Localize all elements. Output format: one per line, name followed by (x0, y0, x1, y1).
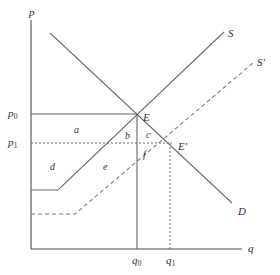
region-label-d: d (50, 162, 55, 172)
equilibrium-point-label-E-prime: E' (178, 141, 187, 152)
region-label-a: a (74, 125, 79, 135)
region-label-f: f (143, 150, 146, 160)
p1-subscript: 1 (14, 141, 18, 150)
region-label-b: b (125, 131, 130, 141)
region-label-c: c (146, 130, 150, 140)
q0-subscript: 0 (138, 259, 142, 268)
diagram-canvas (0, 0, 280, 275)
q1-subscript: 1 (172, 259, 176, 268)
price-tick-label-p0: p0 (8, 108, 17, 119)
p0-base: p (8, 107, 14, 119)
q1-base: q (166, 254, 172, 266)
p0-subscript: 0 (14, 112, 18, 121)
supply-shifted-curve-label: S' (257, 57, 265, 68)
p1-base: p (8, 136, 14, 148)
demand-curve (50, 33, 232, 203)
region-label-e: e (103, 162, 107, 172)
y-axis-label: p (29, 7, 35, 18)
demand-curve-label: D (238, 206, 246, 217)
x-axis-label: q (248, 243, 254, 254)
supply-curve (31, 32, 224, 190)
supply-curve-label: S (228, 28, 234, 39)
supply-demand-figure: p q p0 p1 q0 q1 D S S' E E' a b c d e f (0, 0, 280, 275)
equilibrium-point-label-E: E (143, 112, 150, 123)
quantity-tick-label-q1: q1 (166, 255, 175, 266)
q0-base: q (132, 254, 138, 266)
quantity-tick-label-q0: q0 (132, 255, 141, 266)
price-tick-label-p1: p1 (8, 137, 17, 148)
